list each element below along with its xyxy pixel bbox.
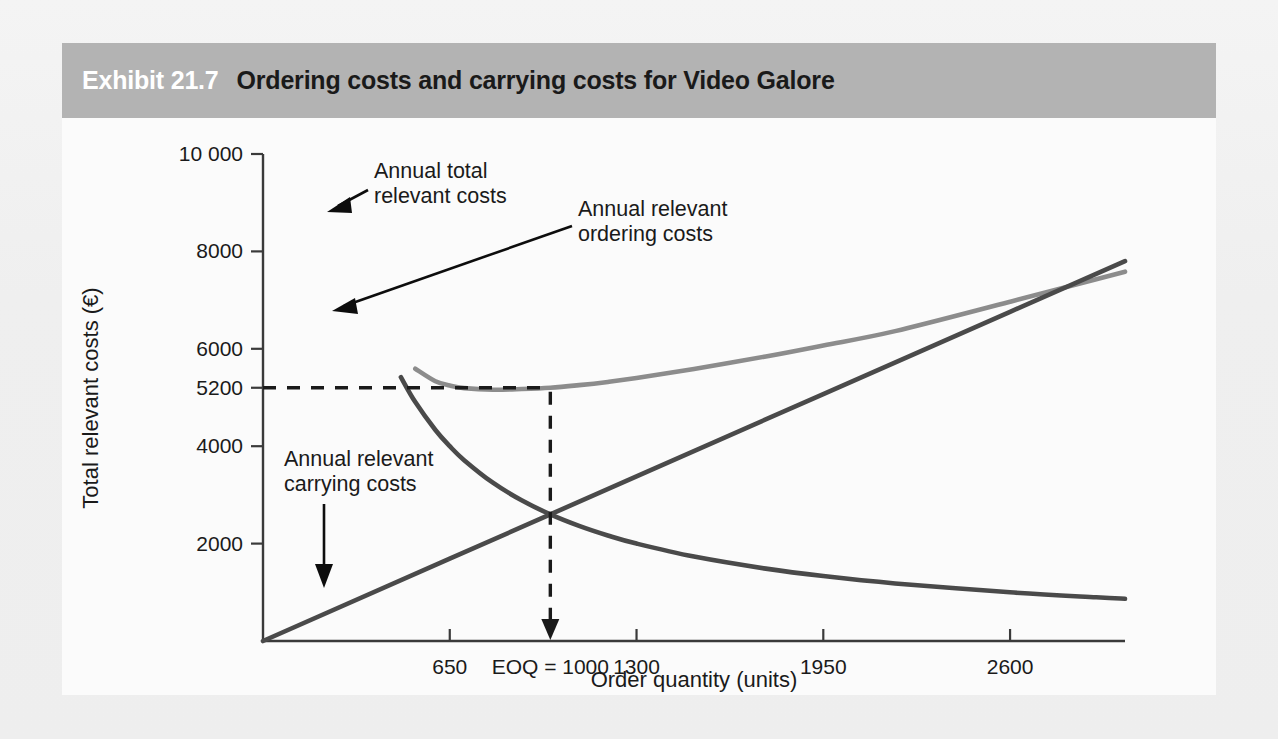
annual-total-relevant-costs-arrow-head-icon <box>327 197 352 213</box>
exhibit-number: Exhibit 21.7 <box>82 66 219 95</box>
annotation-annual-relevant-carrying-costs: Annual relevant carrying costs <box>284 447 433 588</box>
y-axis-title: Total relevant costs (€) <box>78 287 103 508</box>
annual-relevant-ordering-costs-arrow-head-icon <box>332 298 358 314</box>
y-tick-label-5200: 5200 <box>196 376 243 399</box>
annual-total-relevant-costs-label-line2: relevant costs <box>374 184 507 208</box>
chart-card: 2000400052006000800010 000 650EOQ = 1000… <box>62 118 1216 695</box>
page-background: Exhibit 21.7 Ordering costs and carrying… <box>0 0 1278 739</box>
chart-plot-area: 2000400052006000800010 000 650EOQ = 1000… <box>62 118 1216 695</box>
y-tick-label-10000: 10 000 <box>179 142 243 165</box>
y-tick-label-8000: 8000 <box>196 239 243 262</box>
annual-relevant-carrying-costs-label-line2: carrying costs <box>284 472 417 496</box>
annotation-annual-relevant-ordering-costs: Annual relevant ordering costs <box>332 197 727 314</box>
exhibit-title: Ordering costs and carrying costs for Vi… <box>237 66 835 95</box>
annual-relevant-ordering-costs-label-line2: ordering costs <box>578 222 713 246</box>
x-tick-label-1950: 1950 <box>800 655 847 678</box>
x-tick-label-650: 650 <box>432 655 467 678</box>
eoq-cost-chart: 2000400052006000800010 000 650EOQ = 1000… <box>62 118 1216 695</box>
series-line-annual-relevant-ordering-costs <box>401 377 1125 599</box>
eoq-arrow-head-icon <box>541 619 559 640</box>
annual-total-relevant-costs-label-line1: Annual total <box>374 159 488 183</box>
x-tick-label-2600: 2600 <box>987 655 1034 678</box>
y-axis-ticks: 2000400052006000800010 000 <box>179 142 263 555</box>
eoq-guides <box>263 388 559 640</box>
annual-relevant-carrying-costs-label-line1: Annual relevant <box>284 447 433 471</box>
x-axis-title: Order quantity (units) <box>591 667 798 692</box>
annual-relevant-ordering-costs-arrow-shaft <box>344 226 572 306</box>
y-tick-label-6000: 6000 <box>196 337 243 360</box>
annual-relevant-carrying-costs-arrow-head-icon <box>315 564 333 588</box>
series-line-annual-total-relevant-costs <box>415 272 1125 390</box>
y-tick-label-2000: 2000 <box>196 532 243 555</box>
annual-relevant-ordering-costs-label-line1: Annual relevant <box>578 197 727 221</box>
y-tick-label-4000: 4000 <box>196 434 243 457</box>
title-banner: Exhibit 21.7 Ordering costs and carrying… <box>62 43 1216 118</box>
exhibit-card: Exhibit 21.7 Ordering costs and carrying… <box>62 43 1216 695</box>
annotation-annual-total-relevant-costs: Annual total relevant costs <box>327 159 507 213</box>
